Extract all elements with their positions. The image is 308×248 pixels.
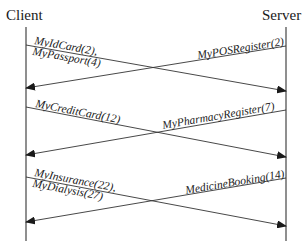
message-label: MyCreditCard(12) — [33, 97, 121, 126]
message-label: MedicineBooking(14) — [183, 167, 285, 197]
client-actor-label: Client — [6, 7, 43, 23]
arrow-left-icon — [26, 110, 286, 155]
message-label: MyPharmacyRegister(7) — [160, 100, 275, 132]
sequence-diagram: Client Server MyIdCard(2), MyPassport(4)… — [0, 0, 308, 248]
message-label: MyPOSRegister(2) — [195, 35, 285, 62]
server-actor-label: Server — [262, 7, 301, 23]
